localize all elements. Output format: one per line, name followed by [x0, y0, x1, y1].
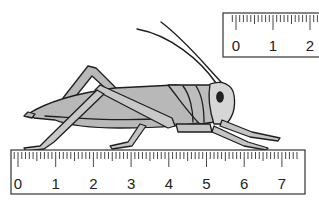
ruler-label: 7: [278, 175, 286, 192]
head: [209, 82, 234, 124]
bottom-ruler: 01234567: [11, 150, 305, 194]
ruler-label: 4: [165, 175, 173, 192]
ruler-label: 2: [306, 37, 314, 54]
ruler-label: 3: [127, 175, 135, 192]
ruler-label: 5: [202, 175, 210, 192]
antenna-back: [137, 29, 216, 83]
ruler-label: 2: [89, 175, 97, 192]
ruler-label: 6: [240, 175, 248, 192]
ruler-label: 1: [269, 37, 277, 54]
hind-leg-far-lower: [24, 112, 35, 118]
top-ruler: 012: [223, 13, 319, 57]
eye: [217, 92, 223, 102]
ruler-label: 0: [232, 37, 240, 54]
grasshopper-ruler-figure: 012 01234567: [0, 0, 319, 200]
mid-leg: [176, 124, 212, 132]
antenna-front: [161, 22, 223, 84]
ruler-label: 0: [14, 175, 22, 192]
ruler-label: 1: [52, 175, 60, 192]
